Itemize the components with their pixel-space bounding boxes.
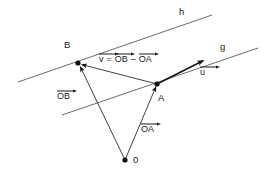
vector-v-arrow bbox=[82, 65, 158, 85]
equation-ob-text: OB bbox=[115, 55, 128, 64]
vector-diagram-figure: h g B A 0 u OB OA bbox=[0, 0, 264, 175]
vector-oa-overbar-group: OA bbox=[141, 124, 154, 134]
point-a-label: A bbox=[158, 93, 164, 103]
vector-oa-text: OA bbox=[141, 125, 154, 134]
equation-oa-text: OA bbox=[139, 55, 152, 64]
vector-u-overbar-group: u bbox=[200, 67, 205, 77]
vector-ob-overbar-group: OB bbox=[57, 91, 70, 101]
figure-canvas bbox=[0, 0, 264, 175]
vector-ob-arrow bbox=[80, 67, 125, 161]
point-b-dot bbox=[75, 60, 80, 65]
equation-minus-sign: – bbox=[130, 55, 137, 64]
vector-equation-row: v = OB – OA bbox=[99, 54, 152, 64]
equation-v-group: v bbox=[99, 54, 104, 64]
point-o-dot bbox=[122, 157, 127, 162]
vector-u-text: u bbox=[200, 68, 205, 77]
vector-equation-label: v = OB – OA bbox=[99, 54, 152, 64]
line-h-label: h bbox=[179, 7, 184, 17]
vector-ob-text: OB bbox=[57, 92, 70, 101]
point-a-dot bbox=[154, 81, 159, 86]
point-b-label: B bbox=[64, 40, 70, 50]
point-o-label: 0 bbox=[133, 155, 138, 165]
vector-oa-label: OA bbox=[141, 124, 154, 134]
vector-ob-label: OB bbox=[57, 91, 70, 101]
equation-equals-sign: = bbox=[106, 55, 113, 64]
line-g-label: g bbox=[220, 42, 225, 52]
equation-ob-group: OB bbox=[115, 54, 128, 64]
line-h bbox=[18, 15, 212, 82]
equation-oa-group: OA bbox=[139, 54, 152, 64]
vector-u-label: u bbox=[200, 67, 205, 77]
equation-v-text: v bbox=[99, 55, 104, 64]
vector-u-arrow bbox=[157, 61, 204, 85]
line-g bbox=[62, 48, 258, 115]
